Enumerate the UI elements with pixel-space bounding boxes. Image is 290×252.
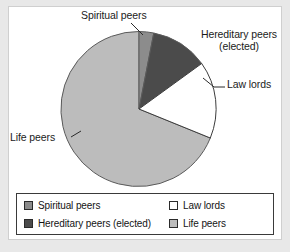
legend-item-hereditary-peers[interactable]: Hereditary peers (elected) (24, 215, 151, 232)
legend-swatch-life-peers (169, 219, 178, 228)
pie-label-law-lords: Law lords (227, 79, 271, 91)
legend-swatch-spiritual-peers (24, 201, 33, 210)
legend-item-life-peers[interactable]: Life peers (169, 215, 226, 232)
pie-label-life-peers: Life peers (10, 132, 55, 144)
pie-label-hereditary-peers: Hereditary peers (elected) (187, 29, 290, 52)
legend-swatch-law-lords (169, 201, 178, 210)
legend-label-law-lords: Law lords (183, 200, 225, 211)
chart-legend: Spiritual peers Hereditary peers (electe… (16, 193, 274, 235)
pie-label-hereditary-peers-line2: (elected) (187, 41, 290, 53)
legend-label-hereditary-peers: Hereditary peers (elected) (38, 218, 151, 229)
legend-item-spiritual-peers[interactable]: Spiritual peers (24, 197, 100, 214)
figure-frame: Spiritual peers Hereditary peers (electe… (8, 6, 282, 240)
legend-label-life-peers: Life peers (183, 218, 226, 229)
legend-label-spiritual-peers: Spiritual peers (38, 200, 100, 211)
legend-swatch-hereditary-peers (24, 219, 33, 228)
pie-label-spiritual-peers: Spiritual peers (81, 10, 147, 22)
legend-item-law-lords[interactable]: Law lords (169, 197, 225, 214)
pie-label-hereditary-peers-line1: Hereditary peers (187, 29, 290, 41)
